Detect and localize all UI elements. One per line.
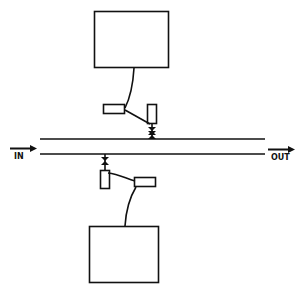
- output-arrow-icon: [268, 146, 295, 153]
- bottom-cable: [125, 187, 136, 226]
- top-valve-icon: [148, 127, 156, 139]
- output-label: OUT: [271, 153, 290, 162]
- bottom-link: [108, 173, 135, 181]
- top-unit-box: [95, 12, 169, 68]
- bottom-unit-box: [90, 227, 159, 283]
- input-arrow-icon: [10, 145, 37, 152]
- diagram-canvas: IN OUT: [0, 0, 305, 294]
- top-link: [125, 110, 150, 124]
- top-horizontal-sensor: [104, 105, 125, 114]
- top-cable: [125, 68, 134, 108]
- top-vertical-sensor: [148, 105, 157, 124]
- input-label: IN: [14, 152, 24, 161]
- bottom-horizontal-sensor: [135, 178, 156, 187]
- bottom-valve-icon: [101, 157, 109, 165]
